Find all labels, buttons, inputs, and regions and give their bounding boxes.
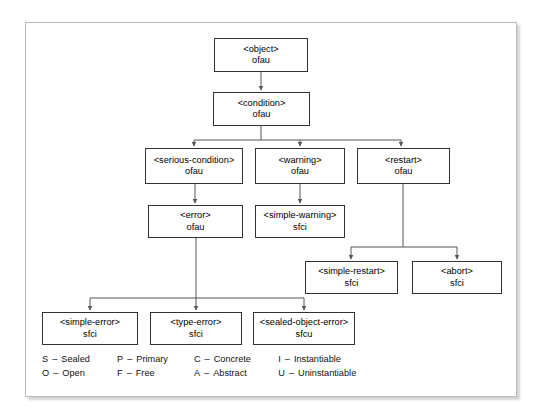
legend-meaning: Instantiable: [294, 354, 341, 364]
node-serious-condition[interactable]: <serious-condition> ofau: [145, 148, 243, 184]
node-condition[interactable]: <condition> ofau: [213, 92, 310, 126]
node-condition-flags: ofau: [253, 109, 271, 120]
legend-meaning: Open: [62, 368, 84, 378]
node-type-error-flags: sfci: [189, 329, 203, 340]
node-restart-flags: ofau: [395, 166, 413, 177]
node-simple-error[interactable]: <simple-error> sfci: [42, 312, 138, 345]
node-sealed-object-error[interactable]: <sealed-object-error> sfcu: [253, 312, 355, 345]
node-abort-flags: sfci: [450, 278, 464, 289]
legend-dash: –: [49, 368, 62, 378]
node-object-flags: ofau: [252, 55, 270, 66]
legend-dash: –: [281, 354, 294, 364]
legend-key: O: [42, 368, 49, 378]
node-abort-name: <abort>: [441, 266, 473, 277]
node-type-error-name: <type-error>: [171, 317, 222, 328]
legend-item-sealed: S – Sealed: [42, 354, 117, 364]
node-error[interactable]: <error> ofau: [148, 205, 243, 238]
legend-item-primary: P – Primary: [117, 354, 194, 364]
node-warning[interactable]: <warning> ofau: [255, 148, 345, 184]
legend-dash: –: [285, 368, 298, 378]
node-simple-warning-name: <simple-warning>: [264, 210, 337, 221]
legend-dash: –: [48, 354, 61, 364]
node-type-error[interactable]: <type-error> sfci: [150, 312, 242, 345]
node-warning-flags: ofau: [291, 166, 309, 177]
legend-meaning: Abstract: [213, 368, 247, 378]
node-simple-error-name: <simple-error>: [60, 317, 120, 328]
legend-meaning: Uninstantiable: [298, 368, 356, 378]
node-serious-condition-name: <serious-condition>: [154, 155, 235, 166]
node-serious-condition-flags: ofau: [185, 166, 203, 177]
legend-item-free: F – Free: [117, 368, 194, 378]
legend-row: S – Sealed P – Primary C – Concrete I – …: [42, 352, 372, 366]
legend-dash: –: [123, 354, 136, 364]
legend-item-concrete: C – Concrete: [194, 354, 278, 364]
node-simple-warning[interactable]: <simple-warning> sfci: [255, 205, 345, 238]
node-warning-name: <warning>: [278, 155, 321, 166]
legend-item-instantiable: I – Instantiable: [278, 354, 372, 364]
node-condition-name: <condition>: [238, 98, 286, 109]
node-restart-name: <restart>: [385, 155, 422, 166]
node-object-name: <object>: [243, 44, 278, 55]
legend-meaning: Concrete: [214, 354, 251, 364]
legend-key: U: [278, 368, 285, 378]
node-restart[interactable]: <restart> ofau: [357, 148, 450, 184]
node-error-flags: ofau: [187, 222, 205, 233]
node-error-name: <error>: [180, 210, 210, 221]
node-simple-error-flags: sfci: [83, 329, 97, 340]
node-object[interactable]: <object> ofau: [214, 38, 308, 72]
legend-meaning: Free: [136, 368, 155, 378]
legend: S – Sealed P – Primary C – Concrete I – …: [42, 352, 372, 380]
node-simple-warning-flags: sfci: [293, 222, 307, 233]
node-sealed-object-error-flags: sfcu: [296, 329, 313, 340]
node-simple-restart[interactable]: <simple-restart> sfci: [305, 261, 398, 294]
figure-canvas: <object> ofau <condition> ofau <serious-…: [0, 0, 543, 418]
node-sealed-object-error-name: <sealed-object-error>: [260, 317, 348, 328]
legend-dash: –: [123, 368, 136, 378]
legend-dash: –: [200, 368, 213, 378]
legend-row: O – Open F – Free A – Abstract U – Unins…: [42, 366, 372, 380]
legend-key: C: [194, 354, 201, 364]
node-simple-restart-name: <simple-restart>: [318, 266, 385, 277]
node-abort[interactable]: <abort> sfci: [412, 261, 502, 294]
legend-meaning: Sealed: [61, 354, 90, 364]
legend-meaning: Primary: [136, 354, 168, 364]
legend-item-open: O – Open: [42, 368, 117, 378]
legend-item-uninstantiable: U – Uninstantiable: [278, 368, 372, 378]
legend-dash: –: [201, 354, 214, 364]
node-simple-restart-flags: sfci: [345, 278, 359, 289]
legend-item-abstract: A – Abstract: [194, 368, 278, 378]
